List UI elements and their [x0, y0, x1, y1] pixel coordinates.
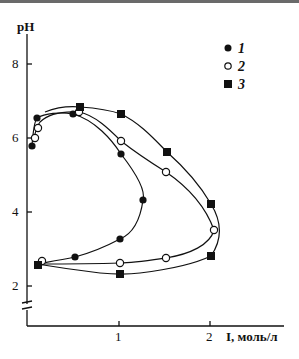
curve-series-1	[32, 113, 143, 264]
y-tick-6: 6	[12, 130, 19, 145]
legend-label-1: 1	[238, 41, 245, 56]
legend-label-3: 3	[237, 77, 245, 92]
y-tick-8: 8	[12, 56, 19, 71]
x-tick-1: 1	[115, 329, 122, 344]
curves	[32, 107, 219, 274]
legend-marker-filled-square-icon	[224, 80, 232, 88]
y-axis-title: pH	[17, 19, 34, 34]
y-tick-4: 4	[12, 204, 19, 219]
chart: pH 8 6 4 2 1 2 I, моль/л	[0, 0, 299, 359]
legend-marker-filled-circle-icon	[225, 45, 232, 52]
legend: 1 2 3	[224, 41, 245, 92]
x-axis-title: I, моль/л	[226, 329, 278, 344]
series-1-points	[28, 110, 146, 260]
series-2-points	[31, 108, 217, 266]
curve-series-2	[34, 112, 214, 264]
axis-break-icon	[22, 301, 32, 309]
legend-marker-open-circle-icon	[225, 63, 231, 69]
curve-series-3	[37, 107, 219, 274]
y-tick-2: 2	[12, 278, 19, 293]
legend-label-2: 2	[237, 59, 245, 74]
x-tick-2: 2	[206, 329, 213, 344]
